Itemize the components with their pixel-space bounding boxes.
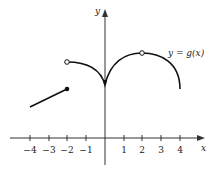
tick-label: 1 [121,145,127,155]
tick-label: 4 [177,145,183,155]
y-axis-arrow-icon [102,9,108,17]
tick-label: −3 [42,145,56,155]
cusp [103,80,107,88]
left-arc [67,62,105,85]
curve-label: y = g(x) [167,48,205,58]
graph: −4 −3 −2 −1 1 2 3 4 x y y = g(x) [0,0,217,171]
open-point [140,51,145,56]
x-axis-label: x [201,143,206,153]
right-arc [105,53,180,89]
tick-label: 2 [139,145,145,155]
y-axis-label: y [94,6,101,16]
open-point [65,60,70,65]
x-axis-arrow-icon [197,135,205,141]
closed-point [65,87,70,92]
tick-label: 3 [158,145,164,155]
tick-label: −2 [60,145,73,155]
tick-label: −4 [23,145,37,155]
line-segment [30,89,67,107]
tick-label: −1 [79,145,92,155]
